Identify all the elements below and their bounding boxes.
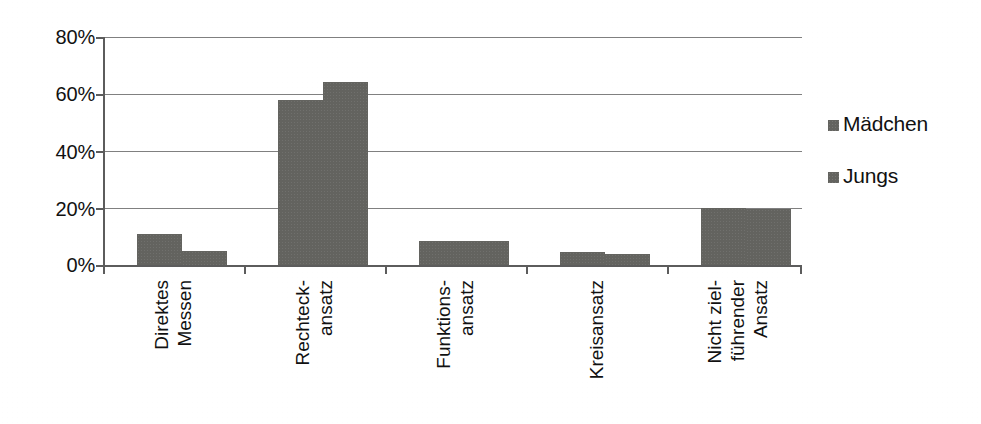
x-axis-label-line: ansatz (456, 280, 478, 336)
x-tick-mark (526, 265, 528, 274)
x-axis-label-direktes-messen: Direktes Messen (103, 280, 244, 410)
x-tick-mark (385, 265, 387, 274)
x-axis-label-line: führender (727, 280, 749, 361)
bar-maedchen-nicht-zielfuehrender-ansatz (701, 208, 746, 265)
y-axis-tick-label: 20% (15, 199, 95, 219)
legend-label: Jungs (843, 164, 898, 188)
x-axis-label-line: Kreisansatz (586, 280, 608, 379)
x-tick-mark (667, 265, 669, 274)
x-axis-label-kreisansatz: Kreisansatz (526, 280, 667, 410)
x-axis-label-line: Ansatz (750, 280, 772, 338)
y-tick-mark-80 (96, 37, 104, 39)
x-axis-label-line: Funktions- (433, 280, 455, 369)
bar-maedchen-kreisansatz (560, 252, 605, 265)
legend-swatch-icon (828, 172, 839, 183)
gridline-60 (105, 94, 802, 95)
bar-jungs-kreisansatz (605, 254, 650, 265)
x-axis-label-line: Messen (174, 280, 196, 347)
y-tick-mark-60 (96, 94, 104, 96)
plot-area (103, 37, 802, 265)
bar-jungs-nicht-zielfuehrender-ansatz (746, 209, 791, 265)
x-axis-label-line: Nicht ziel- (704, 280, 726, 363)
gridline-20 (105, 208, 802, 209)
bar-maedchen-funktions-ansatz (419, 241, 464, 265)
bar-maedchen-direktes-messen (137, 234, 182, 265)
legend-label: Mädchen (843, 112, 928, 136)
gridline-80 (105, 37, 802, 38)
bar-maedchen-rechteck-ansatz (278, 100, 323, 265)
x-axis-label-line: Direktes (151, 280, 173, 350)
y-axis-tick-label: 80% (15, 27, 95, 47)
gridline-40 (105, 151, 802, 152)
y-axis-tick-label: 60% (15, 84, 95, 104)
x-tick-mark (103, 265, 105, 274)
x-axis-label-line: ansatz (315, 280, 337, 336)
x-axis-label-line: Rechteck- (292, 280, 314, 366)
x-axis-label-funktions-ansatz: Funktions- ansatz (385, 280, 526, 410)
x-axis-label-nicht-zielfuehrender-ansatz: Nicht ziel- führender Ansatz (667, 280, 808, 410)
chart-legend: Mädchen Jungs (828, 112, 978, 216)
y-tick-mark-20 (96, 208, 104, 210)
y-axis-tick-label: 40% (15, 142, 95, 162)
x-axis-label-rechteck-ansatz: Rechteck- ansatz (244, 280, 385, 410)
legend-swatch-icon (828, 120, 839, 131)
plot-inner (105, 37, 802, 265)
legend-entry-maedchen: Mädchen (828, 112, 978, 136)
bar-jungs-funktions-ansatz (464, 241, 509, 265)
bar-jungs-direktes-messen (182, 251, 227, 265)
bar-chart: 80% 60% 40% 20% 0% (0, 0, 981, 424)
bar-jungs-rechteck-ansatz (323, 82, 368, 265)
legend-entry-jungs: Jungs (828, 164, 978, 188)
x-tick-mark (800, 265, 802, 274)
x-axis-line (105, 265, 802, 267)
y-tick-mark-40 (96, 151, 104, 153)
y-axis-tick-label: 0% (15, 255, 95, 275)
x-tick-mark (244, 265, 246, 274)
